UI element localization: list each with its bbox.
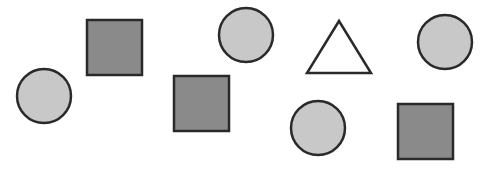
circle-shape-1 xyxy=(17,69,71,123)
square-shape-3 xyxy=(398,104,453,159)
circle-shape-4 xyxy=(291,101,345,155)
triangle-shape-1 xyxy=(307,21,371,73)
circle-shape-2 xyxy=(219,8,273,62)
square-shape-2 xyxy=(174,76,229,131)
square-shape-1 xyxy=(87,20,142,75)
shapes-canvas xyxy=(0,0,486,169)
circle-shape-3 xyxy=(418,15,472,69)
shapes-diagram xyxy=(0,0,486,169)
